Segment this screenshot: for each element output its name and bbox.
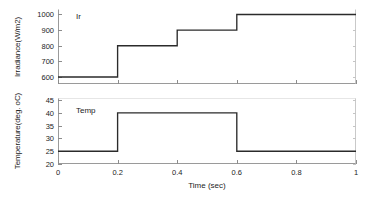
figure-canvas: Irradiance(W/m2) 6007008009001000 Ir Tem…: [0, 0, 367, 197]
x-tick-label: 0.2: [112, 168, 122, 177]
x-tick-irradiance: [356, 80, 357, 84]
y-tick-temperature: [58, 164, 62, 165]
x-tick-label: 0: [56, 168, 60, 177]
y-tick-label-temperature: 20: [28, 160, 54, 169]
y-tick-label-temperature: 35: [28, 121, 54, 130]
y-tick-label-irradiance: 900: [28, 26, 54, 35]
y-tick-label-temperature: 45: [28, 96, 54, 105]
plot-area-irradiance: [58, 9, 356, 84]
y-tick-label-temperature: 25: [28, 147, 54, 156]
series-annotation-temp: Temp: [76, 106, 96, 115]
x-tick-label: 0.4: [172, 168, 182, 177]
y-tick-right-temperature: [353, 164, 356, 165]
data-trace-irradiance: [58, 9, 356, 84]
y-tick-label-temperature: 40: [28, 108, 54, 117]
y-axis-label-irradiance: Irradiance(W/m2): [13, 16, 22, 76]
x-axis-label: Time (sec): [58, 181, 356, 190]
x-tick-label: 0.6: [232, 168, 242, 177]
data-trace-temperature: [58, 98, 356, 164]
x-tick-label: 1: [354, 168, 358, 177]
plot-area-temperature: [58, 98, 356, 164]
x-tick-temperature: [356, 160, 357, 164]
series-annotation-ir: Ir: [76, 12, 81, 21]
x-tick-label: 0.8: [291, 168, 301, 177]
y-tick-label-irradiance: 800: [28, 41, 54, 50]
y-tick-label-irradiance: 700: [28, 57, 54, 66]
y-tick-label-temperature: 30: [28, 134, 54, 143]
y-tick-label-irradiance: 1000: [28, 10, 54, 19]
y-tick-label-irradiance: 600: [28, 72, 54, 81]
y-axis-label-temperature: Temperature(deg. oC): [13, 93, 22, 169]
